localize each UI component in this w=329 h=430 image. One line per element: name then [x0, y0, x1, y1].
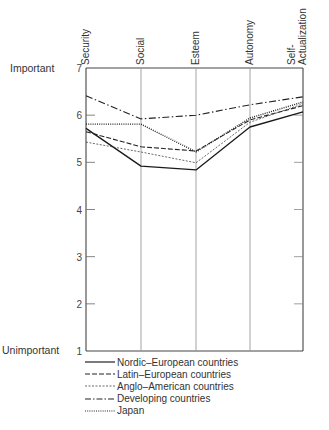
legend-line-dotted-icon — [85, 408, 115, 414]
legend-item-nordic: Nordic–European countries — [85, 356, 238, 368]
legend-line-solid-icon — [85, 359, 115, 365]
y-tick-label: 5 — [76, 157, 82, 168]
category-label: Autonomy — [244, 20, 255, 65]
legend-item-japan: Japan — [85, 405, 238, 417]
legend-item-developing: Developing countries — [85, 393, 238, 405]
category-label: Security — [80, 29, 91, 65]
series-line-japan — [86, 102, 303, 152]
category-label: Esteem — [190, 31, 201, 65]
legend: Nordic–European countries Latin–European… — [85, 356, 238, 417]
series-line-anglo-american-countries — [86, 104, 303, 163]
y-tick-label: 3 — [76, 252, 82, 263]
y-axis-ticks: 1234567 — [76, 63, 303, 356]
category-label: Social — [135, 38, 146, 65]
series-line-latin-european-countries — [86, 106, 303, 151]
category-label: Actualization — [297, 8, 308, 65]
legend-item-latin: Latin–European countries — [85, 368, 238, 380]
y-tick-label: 2 — [76, 299, 82, 310]
category-label: Self- — [286, 44, 297, 65]
legend-item-anglo: Anglo–American countries — [85, 380, 238, 392]
parallel-coordinates-chart: SecuritySocialEsteemAutonomySelf-Actuali… — [0, 0, 329, 356]
legend-line-fine-dashed-icon — [85, 383, 115, 389]
y-top-label: Important — [10, 62, 54, 74]
legend-line-dash-dot-icon — [85, 396, 115, 402]
category-axes: SecuritySocialEsteemAutonomySelf-Actuali… — [80, 8, 308, 351]
y-tick-label: 1 — [76, 346, 82, 356]
y-tick-label: 7 — [76, 63, 82, 74]
y-tick-label: 6 — [76, 110, 82, 121]
y-bottom-label: Unimportant — [2, 344, 59, 356]
legend-line-dashed-icon — [85, 371, 115, 377]
series-lines — [86, 96, 303, 170]
series-line-nordic-european-countries — [86, 112, 303, 170]
y-tick-label: 4 — [76, 205, 82, 216]
